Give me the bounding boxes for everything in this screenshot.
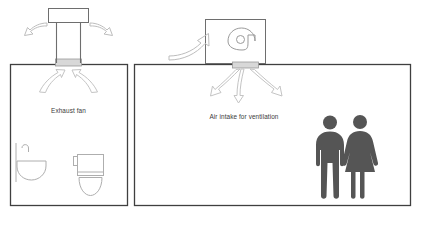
fan-cap-icon (49, 9, 89, 23)
bathroom-outline (11, 65, 128, 206)
blower-housing (206, 20, 266, 64)
supply-vent-opening (233, 62, 259, 68)
air-intake-label: Air intake for ventilation (209, 113, 278, 120)
arrow-exhaust-right-icon (90, 23, 113, 36)
arrow-outside-air-icon (169, 34, 209, 61)
bathroom-room (11, 65, 128, 206)
ventilation-diagram: Exhaust fan Air intake for v (0, 0, 422, 231)
exhaust-fan-label: Exhaust fan (51, 107, 86, 114)
arrow-exhaust-left-icon (25, 23, 48, 36)
exhaust-vent-opening (56, 59, 82, 66)
roof-blower-unit (206, 20, 266, 69)
roof-exhaust-fan (49, 9, 89, 67)
